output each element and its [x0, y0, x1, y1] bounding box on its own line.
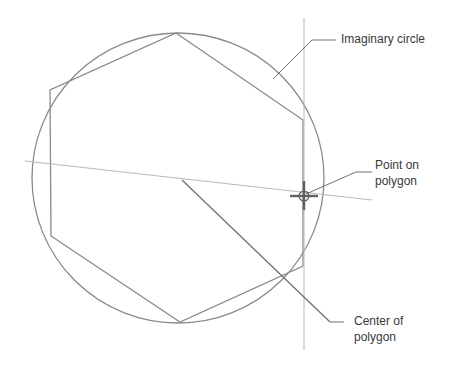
crosshair-cursor-icon [290, 181, 318, 210]
label-imaginary-circle: Imaginary circle [341, 31, 425, 47]
label-point-on-polygon-line1: Point on [375, 157, 419, 173]
hexagon-polygon [50, 33, 303, 322]
horizontal-guide-line [25, 161, 372, 200]
label-center-line2: polygon [354, 329, 396, 345]
label-center-line1: Center of [354, 313, 403, 329]
label-point-on-polygon-line2: polygon [375, 173, 417, 189]
point-leader-line [306, 172, 372, 194]
